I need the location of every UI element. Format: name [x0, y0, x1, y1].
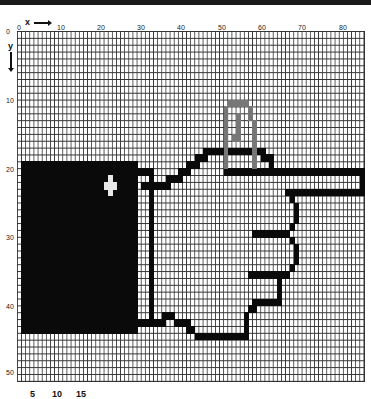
hand-edge-1	[166, 175, 183, 183]
x-tick: 50	[218, 24, 226, 31]
finger-bottom	[285, 189, 364, 197]
contour-6	[294, 244, 299, 265]
y-axis-label: y	[8, 41, 13, 51]
cuff-button	[141, 182, 150, 190]
x-tick: 30	[137, 24, 145, 31]
y-tick: 40	[6, 303, 14, 310]
thumb-dot	[232, 134, 237, 142]
hand-edge-3	[186, 161, 199, 169]
finger-2	[252, 230, 290, 238]
thumb-right-2	[252, 120, 257, 169]
thumb-right-1	[248, 106, 253, 121]
wrist-top	[153, 182, 170, 190]
top-border-bar	[0, 0, 371, 5]
x-tick: 10	[57, 24, 65, 31]
hand-edge-2	[178, 168, 191, 176]
footer-fragment: 15	[76, 389, 86, 399]
x-tick: 70	[298, 24, 306, 31]
x-tick: 80	[339, 24, 347, 31]
palm-bottom-0	[149, 319, 166, 327]
y-tick: 20	[6, 166, 14, 173]
contour-2	[294, 203, 299, 224]
y-tick: 30	[6, 234, 14, 241]
footer-fragment: 5	[30, 389, 35, 399]
y-tick: 50	[6, 369, 14, 376]
y-axis-arrow-icon	[10, 52, 12, 69]
thumb-nail-top	[228, 100, 249, 108]
cuff-top	[137, 168, 150, 176]
y-tick: 10	[6, 97, 14, 104]
y-tick: 0	[6, 28, 10, 35]
thumb-left	[224, 106, 229, 169]
pixel-grid	[17, 31, 365, 382]
x-tick: 0	[17, 24, 21, 31]
sleeve-highlight-h	[104, 182, 117, 190]
footer-fragment: 10	[52, 389, 62, 399]
finger-4-step	[248, 305, 257, 313]
palm-bottom-4	[195, 333, 249, 341]
x-axis-label: x	[25, 17, 30, 27]
cuff-right	[149, 168, 154, 327]
sleeve	[21, 161, 137, 333]
finger-top	[224, 168, 365, 176]
x-axis-arrow-icon	[34, 22, 49, 24]
palm-bottom-5	[244, 312, 249, 333]
x-tick: 40	[177, 24, 185, 31]
x-tick: 20	[97, 24, 105, 31]
x-tick: 60	[258, 24, 266, 31]
